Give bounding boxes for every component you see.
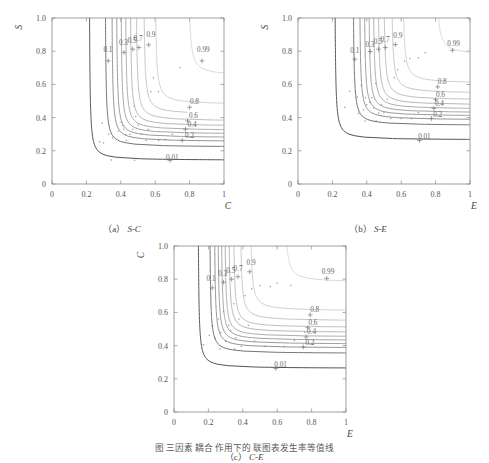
plot-b: 000.20.20.40.40.60.60.80.811.0ES0.010.10… [252,4,484,230]
panel-caption-label: S-E [372,224,387,234]
y-tick-label: 0.8 [36,47,46,56]
scatter-point [108,133,110,135]
scatter-point [418,57,420,59]
x-tick-label: 0.6 [272,418,282,427]
scatter-point [394,77,396,79]
scatter-point [344,107,346,109]
x-tick-label: 0.4 [116,190,126,199]
contour-label-0.6: 0.6 [436,91,445,99]
contour-label-0.1: 0.1 [206,275,215,283]
scatter-point [358,113,360,115]
contour-label-0.4: 0.4 [188,121,197,129]
contour-label-marker-0.9 [146,42,151,47]
panel-a: 000.20.20.40.40.60.60.80.811.0CS0.010.10… [6,4,238,230]
scatter-point [158,140,160,142]
y-tick-label: 0.8 [282,47,292,56]
scatter-point [244,295,246,297]
contour-label-marker-0.1 [352,57,357,62]
scatter-point [111,159,113,161]
contour-label-0.8: 0.8 [438,78,447,86]
y-tick-label: 0.2 [158,375,168,384]
y-axis-label: S [260,24,270,29]
y-tick-label: 0.4 [282,114,292,123]
y-tick-label: 1.0 [36,14,46,23]
contour-label-marker-0.1 [106,58,111,63]
contour-label-0.8: 0.8 [310,306,319,314]
scatter-point [219,348,221,350]
panel-c: 000.20.20.40.40.60.60.80.811.0EC0.010.10… [128,232,360,458]
contour-label-marker-0.3 [368,49,373,54]
x-tick-label: 0.8 [185,190,195,199]
contour-label-0.99: 0.99 [322,268,335,276]
scatter-point [409,58,411,60]
scatter-point [209,335,211,337]
y-tick-label: 0.8 [158,275,168,284]
scatter-point [234,348,236,350]
y-tick-label: 0.2 [36,147,46,156]
figure-caption: 图 三因素 耦合 作用下的 联图表发生率等值线 [0,441,489,458]
contour-label-0.6: 0.6 [308,319,317,327]
scatter-point [137,124,139,126]
x-axis-label: E [470,201,477,211]
y-tick-label: 1.0 [158,242,168,251]
scatter-point [418,112,420,114]
y-tick-label: 0.6 [36,80,46,89]
contour-label-0.8: 0.8 [190,98,199,106]
contour-line-0.9 [404,18,470,82]
contour-label-0.2: 0.2 [185,132,194,140]
scatter-point [251,288,253,290]
scatter-point [387,99,389,101]
contour-label-0.4: 0.4 [307,328,316,336]
contour-label-marker-0.7 [236,274,241,279]
scatter-point [233,303,235,305]
plot-a: 000.20.20.40.40.60.60.80.811.0CS0.010.10… [6,4,238,230]
contour-label-marker-0.99 [200,58,205,63]
contour-line-0.01 [90,18,224,160]
scatter-point [103,142,105,144]
contour-label-marker-0.2 [180,138,185,143]
scatter-point [179,67,181,69]
x-tick-label: 0 [296,190,300,199]
contour-label-0.9: 0.9 [146,31,155,39]
scatter-point [218,318,220,320]
contour-label-0.4: 0.4 [435,100,444,108]
contour-label-marker-0.3 [221,280,226,285]
scatter-point [366,104,368,106]
x-tick-label: 0.6 [396,190,406,199]
contour-label-marker-0.9 [247,269,252,274]
scatter-point [304,332,306,334]
y-tick-label: 0.4 [36,114,46,123]
contour-label-0.2: 0.2 [433,111,442,119]
contour-label-0.9: 0.9 [393,32,402,40]
y-tick-label: 0.4 [158,342,168,351]
contour-line-0.5 [225,246,346,336]
scatter-point [153,77,155,79]
y-axis-label: S [14,24,24,29]
scatter-point [220,332,222,334]
scatter-point [276,283,278,285]
x-tick-label: 0 [50,190,54,199]
x-tick-label: 0.4 [238,418,248,427]
scatter-point [172,133,174,135]
scatter-point [203,344,205,346]
x-tick-label: 0.2 [81,190,91,199]
contour-label-marker-0.3 [122,50,127,55]
scatter-point [363,109,365,111]
scatter-point [99,141,101,143]
scatter-point [150,91,152,93]
scatter-point [132,128,134,130]
scatter-point [101,122,103,124]
x-axis-label: C [225,201,232,211]
scatter-point [241,346,243,348]
contour-line-0.99 [287,246,346,281]
contour-label-0.1: 0.1 [350,47,359,55]
scatter-point [158,91,160,93]
y-tick-label: 0 [42,180,46,189]
x-tick-label: 0.2 [327,190,337,199]
scatter-point [349,91,351,93]
x-tick-label: 0.6 [150,190,160,199]
contour-line-0.01 [335,18,470,139]
contour-line-0.9 [251,246,346,310]
scatter-point [294,340,296,342]
contour-line-0.3 [218,246,346,344]
